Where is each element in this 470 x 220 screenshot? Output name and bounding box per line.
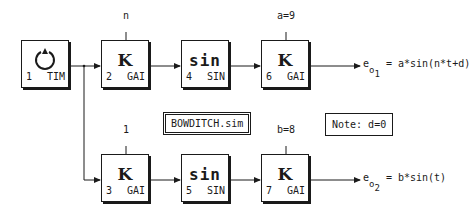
block-4-sin[interactable]: sin 4 SIN	[181, 40, 229, 88]
gain-symbol: K	[102, 50, 148, 70]
file-name-label: BOWDITCH.sim	[163, 112, 251, 135]
block-2-gain[interactable]: K 2 GAI	[101, 40, 149, 88]
block-number: 2	[106, 71, 112, 82]
gain-symbol: K	[262, 164, 308, 184]
output-1-equation: eo1 = a*sin(n*t+d)	[363, 58, 470, 69]
block-number: 7	[266, 185, 272, 196]
block-7-gain[interactable]: K 7 GAI	[261, 154, 309, 202]
gain-symbol: K	[262, 50, 308, 70]
block-type: TIM	[47, 71, 65, 82]
param-1: 1	[106, 124, 146, 135]
block-number: 1	[26, 71, 32, 82]
param-a: a=9	[266, 10, 306, 21]
note-label: Note: d=0	[325, 113, 393, 136]
block-number: 3	[106, 185, 112, 196]
block-number: 5	[186, 185, 192, 196]
block-type: GAI	[287, 71, 305, 82]
block-5-sin[interactable]: sin 5 SIN	[181, 154, 229, 202]
block-6-gain[interactable]: K 6 GAI	[261, 40, 309, 88]
block-type: SIN	[207, 71, 225, 82]
param-n: n	[106, 10, 146, 21]
block-type: SIN	[207, 185, 225, 196]
sin-symbol: sin	[182, 165, 228, 184]
block-1-tim[interactable]: 1 TIM	[21, 40, 69, 88]
block-type: GAI	[287, 185, 305, 196]
sin-symbol: sin	[182, 51, 228, 70]
block-type: GAI	[127, 71, 145, 82]
block-type: GAI	[127, 185, 145, 196]
block-3-gain[interactable]: K 3 GAI	[101, 154, 149, 202]
block-number: 4	[186, 71, 192, 82]
output-2-equation: eo2 = b*sin(t)	[363, 172, 446, 183]
gain-symbol: K	[102, 164, 148, 184]
block-number: 6	[266, 71, 272, 82]
param-b: b=8	[266, 124, 306, 135]
